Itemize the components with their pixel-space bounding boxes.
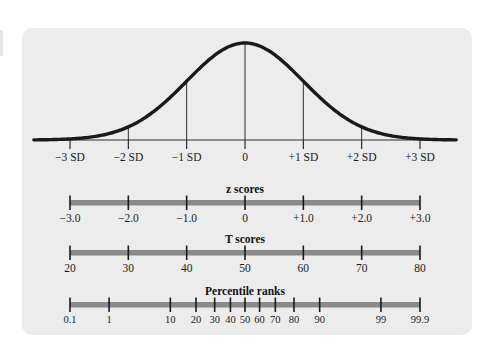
scale-label-z-5: +2.0 bbox=[351, 212, 372, 224]
scale-label-percentile-0: 0.1 bbox=[63, 314, 76, 325]
scale-label-z-0: −3.0 bbox=[60, 212, 81, 224]
scale-label-percentile-1: 1 bbox=[106, 314, 111, 325]
scale-label-t-0: 20 bbox=[64, 262, 76, 274]
scale-label-t-4: 60 bbox=[298, 262, 310, 274]
scale-label-t-3: 50 bbox=[239, 262, 251, 274]
sd-label-4: +1 SD bbox=[288, 151, 318, 163]
sd-label-6: +3 SD bbox=[405, 151, 435, 163]
scale-label-z-2: −1.0 bbox=[176, 212, 197, 224]
scale-label-percentile-5: 40 bbox=[225, 314, 236, 325]
scale-title-t: T scores bbox=[225, 233, 265, 245]
scale-label-percentile-4: 30 bbox=[209, 314, 220, 325]
scale-label-percentile-10: 90 bbox=[314, 314, 325, 325]
scale-label-t-6: 80 bbox=[414, 262, 426, 274]
scale-label-z-1: −2.0 bbox=[118, 212, 139, 224]
scale-label-percentile-9: 80 bbox=[289, 314, 300, 325]
scale-title-z: z scores bbox=[226, 183, 264, 195]
page-edge-mark bbox=[0, 30, 3, 56]
scale-label-z-4: +1.0 bbox=[293, 212, 314, 224]
scale-label-t-5: 70 bbox=[356, 262, 368, 274]
scale-label-percentile-3: 20 bbox=[191, 314, 202, 325]
scale-label-percentile-7: 60 bbox=[254, 314, 265, 325]
scale-label-percentile-2: 10 bbox=[165, 314, 176, 325]
scale-label-t-2: 40 bbox=[181, 262, 193, 274]
scale-label-percentile-12: 99.9 bbox=[411, 314, 429, 325]
scale-label-percentile-8: 70 bbox=[270, 314, 281, 325]
scale-title-percentile: Percentile ranks bbox=[205, 285, 285, 297]
sd-label-0: −3 SD bbox=[55, 151, 85, 163]
scale-label-percentile-11: 99 bbox=[376, 314, 387, 325]
sd-label-1: −2 SD bbox=[113, 151, 143, 163]
scale-label-percentile-6: 50 bbox=[240, 314, 251, 325]
sd-label-5: +2 SD bbox=[347, 151, 377, 163]
scale-label-z-3: 0 bbox=[242, 212, 248, 224]
sd-label-2: −1 SD bbox=[172, 151, 202, 163]
scale-label-z-6: +3.0 bbox=[410, 212, 431, 224]
scale-label-t-1: 30 bbox=[123, 262, 135, 274]
sd-label-3: 0 bbox=[242, 151, 248, 163]
